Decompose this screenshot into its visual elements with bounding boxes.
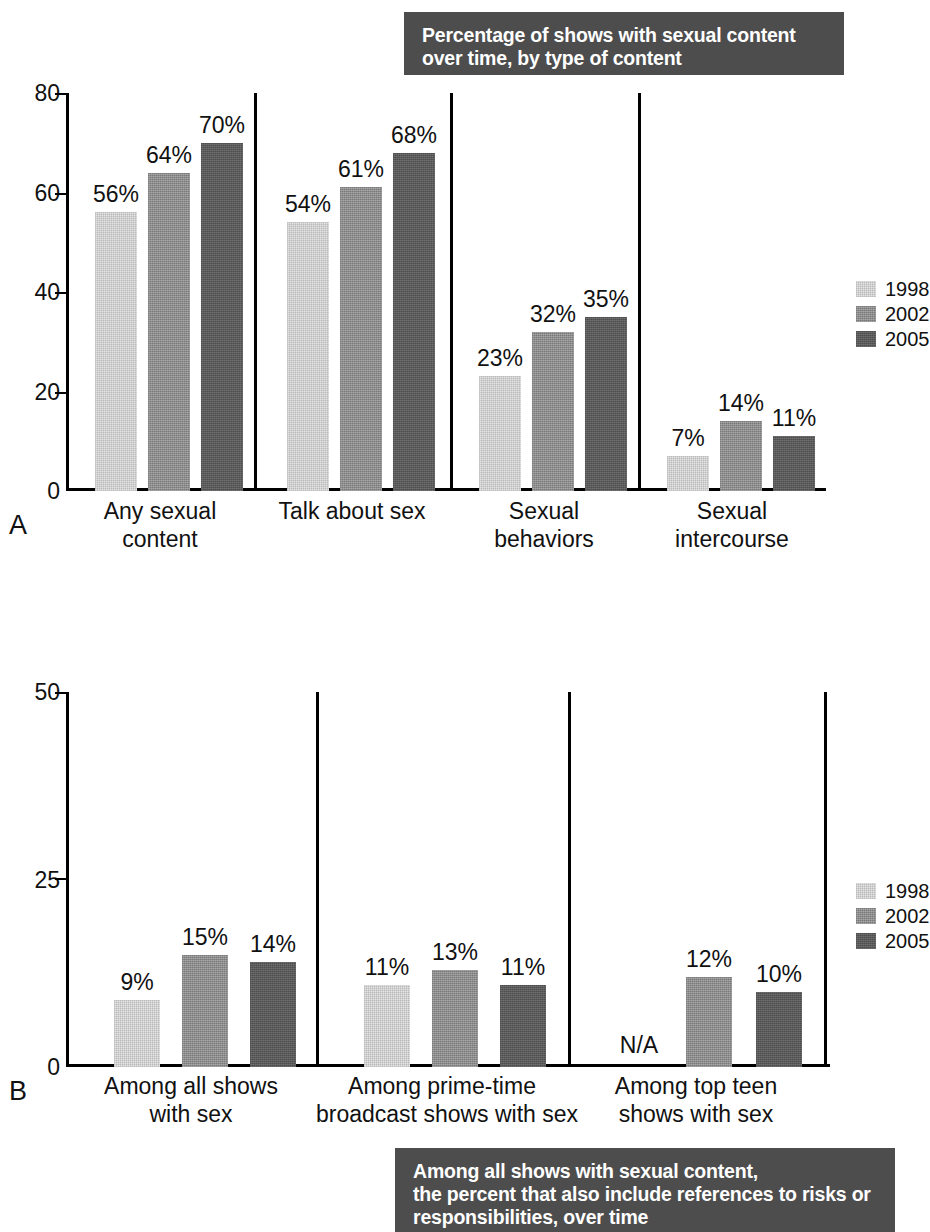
chart-a-bar-label-2002-sexual-intercourse: 14% [718, 390, 764, 417]
chart-a-title: Percentage of shows with sexual content … [404, 12, 844, 75]
bar-fill [201, 143, 243, 491]
chart-a-tick-80 [55, 93, 66, 95]
cat-line: intercourse [638, 525, 826, 553]
bar-fill [250, 962, 296, 1067]
bar-fill [432, 970, 478, 1068]
chart-b-bar-2002-among-prime-time: 13% [432, 970, 478, 1068]
cat-line: Among top teen [568, 1072, 824, 1100]
chart-a-bar-label-2005-talk-about-sex: 68% [391, 122, 437, 149]
chart-a-bar-2005-sexual-behaviors: 35% [585, 317, 627, 491]
cat-line: with sex [66, 1100, 316, 1128]
chart-b-title: Among all shows with sexual content, the… [395, 1148, 895, 1232]
cat-line: Sexual [638, 497, 826, 525]
bar-fill [720, 421, 762, 491]
legend-swatch-1998-icon [856, 281, 876, 297]
chart-a-group-sexual-behaviors: 23% 32% 35% [450, 93, 638, 491]
chart-a-bar-label-1998-talk-about-sex: 54% [285, 191, 331, 218]
legend-swatch-2005-icon [856, 331, 876, 347]
chart-a-bar-label-1998-sexual-behaviors: 23% [477, 345, 523, 372]
chart-a-bar-1998-sexual-behaviors: 23% [479, 376, 521, 491]
bar-fill [585, 317, 627, 491]
chart-b-tick-25 [55, 878, 66, 880]
chart-a-bar-label-2002-sexual-behaviors: 32% [530, 301, 576, 328]
cat-line: behaviors [450, 525, 638, 553]
chart-b-y-axis-labels: 50 25 0 [14, 692, 60, 1067]
chart-a-bar-1998-talk-about-sex: 54% [287, 222, 329, 491]
chart-b-legend-item-1998: 1998 [856, 880, 930, 902]
chart-a-group-any-sexual-content: 56% 64% 70% [66, 93, 254, 491]
chart-b-legend-item-2005: 2005 [856, 930, 930, 952]
chart-b-plot-area: 9% 15% 14% 11% 13% 11% N/A [66, 692, 830, 1067]
chart-a-group-sexual-intercourse: 7% 14% 11% [638, 93, 826, 491]
cat-line: Any sexual [66, 497, 254, 525]
chart-b-category-among-top-teen: Among top teen shows with sex [568, 1072, 824, 1128]
chart-b-title-line-3: responsibilities, over time [413, 1206, 881, 1229]
bar-fill [667, 456, 709, 491]
cat-line: Among all shows [66, 1072, 316, 1100]
panel-a: Percentage of shows with sexual content … [0, 0, 924, 570]
chart-b-legend-item-2002: 2002 [856, 905, 930, 927]
chart-a-legend: 1998 2002 2005 [856, 278, 930, 353]
chart-a-bar-2005-talk-about-sex: 68% [393, 153, 435, 491]
cat-line: Talk about sex [254, 497, 450, 525]
chart-b-group-among-top-teen: N/A 12% 10% [568, 692, 824, 1067]
chart-b-title-line-2: the percent that also include references… [413, 1183, 881, 1206]
chart-a-category-talk-about-sex: Talk about sex [254, 497, 450, 525]
chart-b-group-among-all-shows: 9% 15% 14% [66, 692, 316, 1067]
bar-fill [500, 985, 546, 1068]
chart-a-group-talk-about-sex: 54% 61% 68% [254, 93, 450, 491]
bar-fill [95, 212, 137, 491]
bar-fill [773, 436, 815, 491]
legend-swatch-1998-icon [856, 883, 876, 899]
legend-swatch-2005-icon [856, 933, 876, 949]
chart-b-bar-label-1998-among-all-shows: 9% [120, 969, 153, 996]
bar-fill [479, 376, 521, 491]
bar-fill [287, 222, 329, 491]
chart-b-bar-label-2005-among-all-shows: 14% [250, 931, 296, 958]
chart-a-y-axis-labels: 80 60 40 20 0 [14, 93, 60, 491]
chart-b-category-among-prime-time: Among prime-time broadcast shows with se… [316, 1072, 568, 1128]
chart-b-group-among-prime-time: 11% 13% 11% [316, 692, 568, 1067]
chart-a-legend-item-2005: 2005 [856, 328, 930, 350]
cat-line: Sexual [450, 497, 638, 525]
chart-b-legend-label-2002: 2002 [885, 905, 930, 928]
bar-fill [756, 992, 802, 1067]
chart-a-bar-label-2005-any-sexual-content: 70% [199, 112, 245, 139]
cat-line: Among prime-time [316, 1072, 568, 1100]
chart-a-bar-label-1998-any-sexual-content: 56% [93, 181, 139, 208]
chart-b-bar-2005-among-all-shows: 14% [250, 962, 296, 1067]
chart-a-plot-area: 56% 64% 70% 54% 61% 68% [66, 93, 826, 491]
chart-b-bar-label-1998-among-top-teen: N/A [620, 1032, 658, 1059]
chart-a-bar-2002-sexual-intercourse: 14% [720, 421, 762, 491]
chart-b-bar-label-2005-among-top-teen: 10% [756, 961, 802, 988]
bar-fill [364, 985, 410, 1068]
chart-a-bar-2005-any-sexual-content: 70% [201, 143, 243, 491]
chart-b-title-line-1: Among all shows with sexual content, [413, 1160, 881, 1183]
chart-b-bar-label-2005-among-prime-time: 11% [501, 954, 545, 981]
chart-b-bar-label-2002-among-top-teen: 12% [686, 946, 732, 973]
chart-a-ytick-0: 0 [47, 478, 60, 505]
chart-a-bar-1998-any-sexual-content: 56% [95, 212, 137, 491]
bar-fill [114, 1000, 160, 1068]
chart-b-bar-2005-among-top-teen: 10% [756, 992, 802, 1067]
bar-fill [148, 173, 190, 491]
chart-b-bar-label-2002-among-all-shows: 15% [182, 924, 228, 951]
legend-swatch-2002-icon [856, 908, 876, 924]
chart-a-bar-1998-sexual-intercourse: 7% [667, 456, 709, 491]
chart-a-bar-2002-any-sexual-content: 64% [148, 173, 190, 491]
chart-b-category-among-all-shows: Among all shows with sex [66, 1072, 316, 1128]
chart-a-legend-item-2002: 2002 [856, 303, 930, 325]
chart-a-tick-40 [55, 292, 66, 294]
chart-a-title-line-1: Percentage of shows with sexual content [422, 24, 830, 47]
chart-b-bar-label-1998-among-prime-time: 11% [365, 954, 409, 981]
chart-a-category-any-sexual-content: Any sexual content [66, 497, 254, 553]
panel-b-letter: B [9, 1076, 27, 1107]
chart-b-bar-2005-among-prime-time: 11% [500, 985, 546, 1068]
chart-a-bar-label-2002-talk-about-sex: 61% [338, 156, 384, 183]
chart-a-bar-label-2002-any-sexual-content: 64% [146, 142, 192, 169]
chart-a-category-sexual-behaviors: Sexual behaviors [450, 497, 638, 553]
chart-a-bar-label-2005-sexual-intercourse: 11% [772, 405, 816, 432]
chart-b-bar-label-2002-among-prime-time: 13% [432, 939, 478, 966]
chart-a-legend-label-2005: 2005 [885, 328, 930, 351]
cat-line: content [66, 525, 254, 553]
